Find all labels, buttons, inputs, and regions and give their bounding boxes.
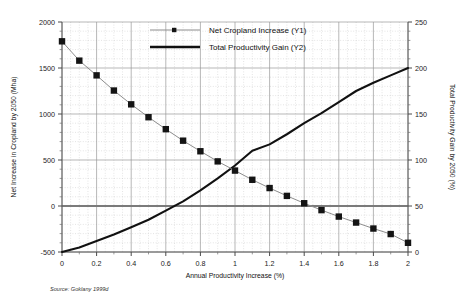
- x-axis-tick-label: 0: [60, 259, 64, 268]
- y1-axis-tick-label: 0: [51, 202, 55, 211]
- x-axis-tick-label: 0.2: [92, 259, 102, 268]
- x-axis-tick-label: 0.6: [161, 259, 171, 268]
- y2-axis-title: Total Productivity Gain by 2050 (%): [448, 84, 456, 190]
- data-point-marker: [215, 158, 221, 164]
- x-axis-tick-label: 1.4: [299, 259, 309, 268]
- data-point-marker: [76, 57, 82, 63]
- x-axis-title: Annual Productivity Increase (%): [186, 272, 285, 280]
- data-point-marker: [93, 72, 99, 78]
- data-point-marker: [405, 240, 411, 246]
- y1-axis-tick-label: 1000: [39, 110, 55, 119]
- data-point-marker: [59, 38, 65, 44]
- x-axis-tick-label: 1.8: [368, 259, 378, 268]
- y1-axis-tick-label: 2000: [39, 18, 55, 27]
- x-axis-tick-label: 1.6: [334, 259, 344, 268]
- chart-figure: 00.20.40.60.811.21.41.61.82-500050010001…: [0, 0, 461, 303]
- y1-axis-tick-label: 1500: [39, 64, 55, 73]
- legend-label-1: Total Productivity Gain (Y2): [209, 43, 306, 52]
- y2-axis-tick-label: 50: [415, 202, 423, 211]
- chart-canvas: 00.20.40.60.811.21.41.61.82-500050010001…: [0, 0, 461, 303]
- x-axis-tick-label: 1: [233, 259, 237, 268]
- y2-axis-tick-label: 0: [415, 248, 419, 257]
- data-point-marker: [180, 137, 186, 143]
- data-point-marker: [353, 219, 359, 225]
- x-axis-tick-label: 0.4: [126, 259, 136, 268]
- x-axis-tick-label: 0.8: [195, 259, 205, 268]
- data-point-marker: [318, 207, 324, 213]
- data-point-marker: [284, 193, 290, 199]
- data-point-marker: [197, 148, 203, 154]
- legend-marker-square-0: [172, 28, 176, 32]
- y1-axis-title: Net Increase in Cropland by 2050 (Mha): [10, 77, 18, 198]
- data-point-marker: [370, 225, 376, 231]
- data-point-marker: [266, 185, 272, 191]
- data-point-marker: [128, 101, 134, 107]
- y2-axis-tick-label: 100: [415, 156, 427, 165]
- data-point-marker: [232, 167, 238, 173]
- x-axis-tick-label: 1.2: [265, 259, 275, 268]
- x-axis-tick-label: 2: [406, 259, 410, 268]
- y1-axis-tick-label: -500: [41, 248, 55, 257]
- data-point-marker: [249, 177, 255, 183]
- y1-axis-tick-label: 500: [43, 156, 55, 165]
- data-point-marker: [163, 126, 169, 132]
- y2-axis-tick-label: 200: [415, 64, 427, 73]
- data-point-marker: [301, 200, 307, 206]
- data-point-marker: [336, 213, 342, 219]
- data-point-marker: [388, 231, 394, 237]
- y2-axis-tick-label: 250: [415, 18, 427, 27]
- legend-label-0: Net Cropland Increase (Y1): [209, 26, 307, 35]
- y2-axis-tick-label: 150: [415, 110, 427, 119]
- data-point-marker: [111, 87, 117, 93]
- data-point-marker: [145, 114, 151, 120]
- source-note: Source: Goklany 1999d: [50, 286, 109, 292]
